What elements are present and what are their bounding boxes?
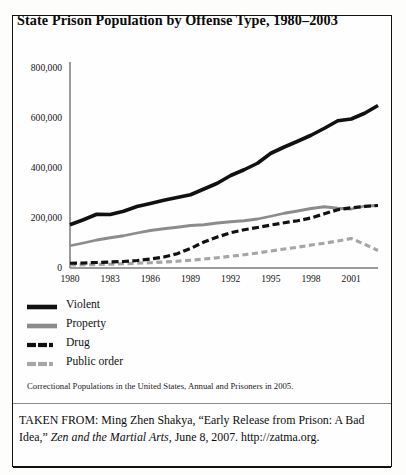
legend-item-public-order: Public order bbox=[27, 352, 277, 371]
line-chart-svg: 0200,000400,000600,000800,00019801983198… bbox=[0, 40, 380, 290]
legend-label-violent: Violent bbox=[66, 299, 100, 311]
x-axis-tick-label: 1995 bbox=[261, 273, 280, 284]
x-axis-tick-label: 2001 bbox=[342, 273, 361, 284]
x-axis-tick-label: 1983 bbox=[101, 273, 120, 284]
x-axis-tick-label: 1986 bbox=[141, 273, 160, 284]
x-axis-tick-label: 1992 bbox=[221, 273, 240, 284]
chart-plot-area: 0200,000400,000600,000800,00019801983198… bbox=[0, 40, 380, 290]
legend-label-drug: Drug bbox=[66, 337, 90, 349]
credit-italic-title: Zen and the Martial Arts bbox=[51, 430, 169, 444]
source-note: Correctional Populations in the United S… bbox=[27, 381, 372, 391]
legend-label-public-order: Public order bbox=[66, 356, 123, 368]
chart-legend: Violent Property Drug Public order bbox=[27, 295, 277, 371]
x-axis-tick-label: 1998 bbox=[301, 273, 320, 284]
x-axis-tick-label: 1980 bbox=[60, 273, 79, 284]
legend-swatch-drug bbox=[27, 337, 57, 349]
credit-suffix: , June 8, 2007. http://zatma.org. bbox=[169, 430, 320, 444]
y-axis-tick-label: 200,000 bbox=[31, 212, 62, 223]
y-axis-tick-label: 800,000 bbox=[31, 62, 62, 73]
x-axis-tick-label: 1989 bbox=[181, 273, 200, 284]
legend-label-property: Property bbox=[66, 318, 106, 330]
legend-item-drug: Drug bbox=[27, 333, 277, 352]
legend-swatch-violent bbox=[27, 299, 57, 311]
legend-item-violent: Violent bbox=[27, 295, 277, 314]
y-axis-tick-label: 0 bbox=[57, 262, 62, 273]
credit-block: TAKEN FROM: Ming Zhen Shakya, “Early Rel… bbox=[19, 412, 379, 445]
y-axis-tick-label: 600,000 bbox=[31, 112, 62, 123]
legend-swatch-property bbox=[27, 318, 57, 330]
legend-item-property: Property bbox=[27, 314, 277, 333]
figure-page: State Prison Population by Offense Type,… bbox=[0, 0, 406, 475]
chart-title: State Prison Population by Offense Type,… bbox=[17, 12, 367, 29]
y-axis-tick-label: 400,000 bbox=[31, 162, 62, 173]
legend-swatch-public-order bbox=[27, 356, 57, 368]
section-divider bbox=[13, 403, 391, 404]
bottom-rule bbox=[13, 466, 391, 468]
